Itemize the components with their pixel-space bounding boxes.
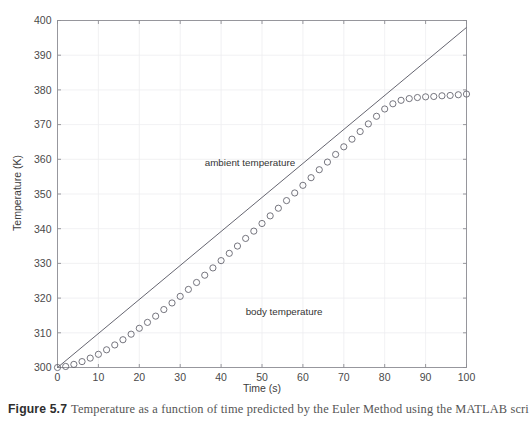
x-tick-label-2: 20 — [133, 371, 145, 383]
y-tick-label-6: 360 — [34, 153, 52, 165]
y-tick-label-5: 350 — [34, 188, 52, 200]
x-tick-label-6: 60 — [297, 371, 309, 383]
y-tick-label-9: 390 — [34, 49, 52, 61]
x-tick-label-7: 70 — [338, 371, 350, 383]
x-axis-title: Time (s) — [243, 382, 281, 394]
x-axis-tick-labels: 0102030405060708090100 — [55, 371, 476, 383]
x-tick-label-9: 90 — [420, 371, 432, 383]
figure-caption: Figure 5.7Temperature as a function of t… — [8, 402, 528, 417]
y-tick-label-0: 300 — [34, 361, 52, 373]
x-tick-label-4: 40 — [215, 371, 227, 383]
x-tick-label-10: 100 — [458, 371, 476, 383]
figure-caption-label: Figure 5.7 — [8, 402, 67, 416]
x-tick-label-3: 30 — [174, 371, 186, 383]
y-tick-label-1: 310 — [34, 327, 52, 339]
y-tick-label-3: 330 — [34, 257, 52, 269]
y-tick-label-7: 370 — [34, 118, 52, 130]
y-axis-title: Temperature (K) — [11, 155, 23, 231]
chart-plot-area: 0102030405060708090100 30031032033034035… — [0, 0, 486, 400]
annotation-body-temperature: body temperature — [246, 306, 323, 317]
y-tick-label-8: 380 — [34, 84, 52, 96]
series-annotations: ambient temperaturebody temperature — [205, 157, 323, 317]
y-tick-label-10: 400 — [34, 14, 52, 26]
y-tick-label-4: 340 — [34, 223, 52, 235]
annotation-ambient-temperature: ambient temperature — [205, 157, 296, 168]
y-tick-label-2: 320 — [34, 292, 52, 304]
x-tick-label-8: 80 — [379, 371, 391, 383]
x-tick-label-5: 50 — [256, 371, 268, 383]
x-tick-label-1: 10 — [93, 371, 105, 383]
x-tick-label-0: 0 — [55, 371, 61, 383]
y-axis-tick-labels: 300310320330340350360370380390400 — [34, 14, 52, 373]
chart-svg: 0102030405060708090100 30031032033034035… — [0, 0, 486, 400]
figure-caption-text: Temperature as a function of time predic… — [71, 402, 529, 416]
